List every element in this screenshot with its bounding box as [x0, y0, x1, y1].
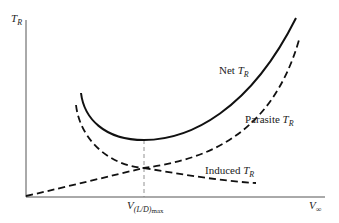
x-axis-label: V∞ — [309, 199, 321, 214]
ld-max-subscript: (L/D) — [134, 205, 152, 214]
x-axis-symbol: V — [309, 199, 316, 211]
parasite-curve-label: Parasite TR — [245, 113, 294, 128]
x-axis-subscript: ∞ — [316, 205, 322, 214]
induced-label-subscript: R — [249, 170, 254, 179]
parasite-thrust-curve — [76, 40, 299, 168]
y-axis-subscript: R — [17, 18, 22, 27]
ld-max-subsubscript: max — [152, 207, 164, 215]
ld-max-label: V(L/D)max — [127, 199, 164, 215]
net-label-subscript: R — [244, 70, 249, 79]
parasite-label-text: Parasite — [245, 113, 283, 125]
parasite-label-subscript: R — [289, 119, 294, 128]
y-axis-label: TR — [11, 12, 22, 27]
induced-label-text: Induced — [205, 164, 243, 176]
induced-curve-label: Induced TR — [205, 164, 254, 179]
net-curve-label: Net TR — [219, 64, 249, 79]
net-label-text: Net — [219, 64, 238, 76]
thrust-required-diagram — [0, 0, 339, 223]
ld-max-symbol: V — [127, 199, 134, 211]
